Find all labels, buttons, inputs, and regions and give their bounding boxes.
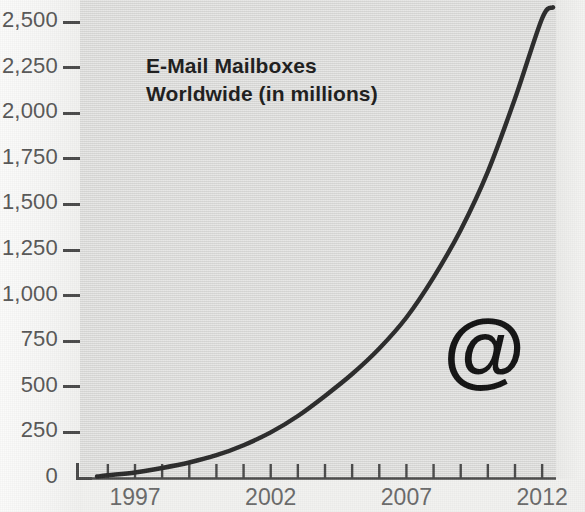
y-axis-tick-mark (63, 203, 80, 206)
chart-title-line1: E-Mail Mailboxes (146, 52, 378, 80)
y-axis-tick-label: 0 (0, 463, 58, 489)
y-axis-tick-label: 1,750 (0, 144, 58, 170)
y-axis-tick-label: 2,000 (0, 98, 58, 124)
y-axis-tick-label: 750 (0, 326, 58, 352)
y-axis-tick-mark (63, 431, 80, 434)
y-axis-tick-label: 2,500 (0, 7, 58, 33)
y-axis-tick-label: 2,250 (0, 53, 58, 79)
chart-figure: 02505007501,0001,2501,5001,7502,0002,250… (0, 0, 585, 512)
y-axis-tick-label: 1,250 (0, 235, 58, 261)
x-axis-tick-label: 2012 (482, 484, 585, 511)
x-axis-tick-label: 1997 (75, 484, 195, 511)
y-axis-tick-mark (63, 340, 80, 343)
y-axis-tick-mark (63, 157, 80, 160)
x-axis-corner-stub (76, 477, 92, 480)
chart-title-line2: Worldwide (in millions) (146, 80, 378, 108)
y-axis-tick-label: 250 (0, 417, 58, 443)
y-axis-tick-label: 500 (0, 372, 58, 398)
y-axis-tick-mark (63, 294, 80, 297)
at-sign-icon: @ (443, 307, 525, 391)
y-axis-tick-mark (63, 385, 80, 388)
y-axis-tick-mark (63, 66, 80, 69)
y-axis-tick-label: 1,500 (0, 189, 58, 215)
y-axis-tick-mark (63, 249, 80, 252)
y-axis-tick-label: 1,000 (0, 281, 58, 307)
y-axis-tick-mark (63, 21, 80, 24)
chart-title: E-Mail Mailboxes Worldwide (in millions) (146, 52, 378, 108)
plot-right-edge-fade (556, 0, 585, 479)
x-axis-tick-label: 2007 (346, 484, 466, 511)
x-axis-tick-label: 2002 (211, 484, 331, 511)
y-axis-tick-mark (63, 112, 80, 115)
